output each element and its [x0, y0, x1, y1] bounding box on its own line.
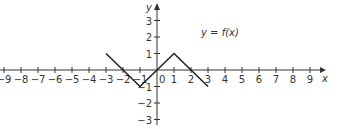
y-tick-label: −3 [137, 115, 152, 126]
function-label: y = f(x) [200, 27, 239, 38]
function-graph: −9−8−7−6−5−4−3−2−1123456789 321−1−2−3 x … [0, 0, 338, 129]
x-tick-label: −4 [82, 74, 97, 85]
x-tick-label: 2 [188, 74, 194, 85]
x-tick-label: 8 [290, 74, 296, 85]
x-tick-label: 5 [239, 74, 245, 85]
y-tick-label: 2 [146, 32, 152, 43]
y-tick-label: −2 [137, 98, 152, 109]
x-axis-label: x [321, 73, 328, 84]
x-tick-label: −8 [14, 74, 29, 85]
x-tick-label: 4 [222, 74, 228, 85]
x-tick-label: −5 [65, 74, 80, 85]
x-tick-label: −3 [99, 74, 114, 85]
y-tick-label: 3 [146, 16, 152, 27]
y-tick-label: 1 [146, 49, 152, 60]
x-tick-label: 1 [171, 74, 177, 85]
x-tick-label: 7 [273, 74, 279, 85]
y-axis-label: y [145, 2, 153, 13]
y-axis-arrow-icon [154, 3, 160, 10]
origin-label: 0 [159, 74, 165, 85]
x-tick-label: 6 [256, 74, 262, 85]
x-tick-label: −9 [0, 74, 11, 85]
x-tick-label: −6 [48, 74, 63, 85]
x-tick-label: −7 [31, 74, 46, 85]
x-tick-label: 9 [307, 74, 313, 85]
